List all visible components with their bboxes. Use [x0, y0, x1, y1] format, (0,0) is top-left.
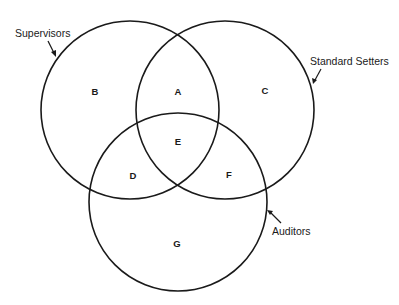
venn-diagram: A B C D E F G Supervisors Standard Sette… [0, 0, 399, 305]
region-label-a: A [175, 86, 182, 97]
standard-setters-arrow-icon [312, 69, 321, 84]
region-label-c: C [262, 85, 269, 96]
region-label-e: E [175, 136, 181, 147]
region-label-f: F [226, 169, 232, 180]
region-label-d: D [130, 170, 137, 181]
standard-setters-circle [136, 21, 314, 199]
auditors-arrow-icon [267, 210, 281, 223]
region-label-b: B [92, 86, 99, 97]
auditors-label: Auditors [272, 225, 311, 237]
standard-setters-label: Standard Setters [310, 55, 389, 67]
supervisors-arrow-icon [48, 41, 56, 57]
region-label-g: G [173, 238, 180, 249]
supervisors-label: Supervisors [15, 27, 70, 39]
